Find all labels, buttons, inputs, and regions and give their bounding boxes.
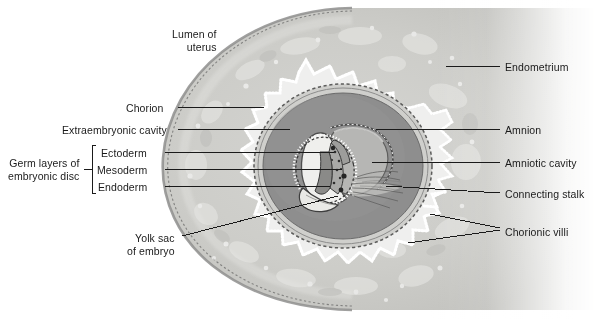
label-lumen-of-uterus: Lumen of uterus xyxy=(172,28,217,53)
label-chorion: Chorion xyxy=(126,102,163,115)
label-connecting-stalk: Connecting stalk xyxy=(505,188,584,201)
label-endometrium: Endometrium xyxy=(505,61,569,74)
label-ectoderm: Ectoderm xyxy=(101,147,147,160)
label-extraembryonic-cavity: Extraembryonic cavity xyxy=(62,124,167,137)
label-amniotic-cavity: Amniotic cavity xyxy=(505,157,577,170)
label-germ-layers-of-embryonic-disc: Germ layers of embryonic disc xyxy=(8,157,79,182)
germ-layers-bracket xyxy=(84,145,96,193)
label-yolk-sac-of-embryo: Yolk sac of embryo xyxy=(127,232,175,257)
label-amnion: Amnion xyxy=(505,124,541,137)
diagram-canvas: Lumen of uterus Chorion Extraembryonic c… xyxy=(0,0,596,319)
label-endoderm: Endoderm xyxy=(98,181,147,194)
label-chorionic-villi: Chorionic villi xyxy=(505,226,568,239)
label-mesoderm: Mesoderm xyxy=(97,164,147,177)
